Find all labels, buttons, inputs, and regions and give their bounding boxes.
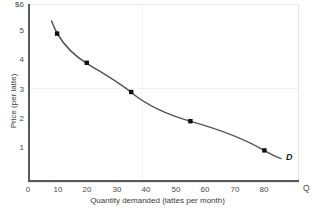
x-axis-title: Quantity demanded (lattes per month) <box>0 196 315 206</box>
demand-curve-chart: $6 5 4 3 2 1 0 10 20 30 40 50 60 70 80 Q… <box>0 0 315 211</box>
data-point-marker-1 <box>55 31 59 35</box>
data-point-marker-3 <box>129 90 133 94</box>
data-point-marker-5 <box>262 148 266 152</box>
demand-curve-label: D <box>286 152 293 162</box>
data-point-marker-4 <box>188 119 192 123</box>
demand-curve-plot <box>0 0 315 211</box>
demand-curve-line <box>52 21 282 159</box>
data-point-marker-2 <box>85 61 89 65</box>
y-axis-title: Price (per latte) <box>9 56 19 146</box>
